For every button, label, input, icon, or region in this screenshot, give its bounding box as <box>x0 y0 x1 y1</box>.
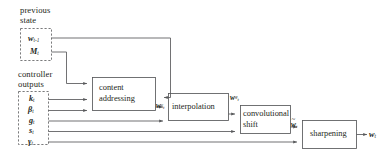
diagram-connectors-layer <box>0 0 386 166</box>
interpolation-label: interpolation <box>172 102 228 113</box>
signal-w-c: wct <box>156 101 164 110</box>
ntm-addressing-diagram: previous state controller outputs wt-1 M… <box>0 0 386 166</box>
signal-s-t: st <box>29 126 34 135</box>
sharpening-label: sharpening <box>310 129 360 140</box>
content-addressing-label: content addressing <box>99 83 157 104</box>
previous-state-label: previous state <box>20 6 50 25</box>
controller-outputs-label: controller outputs <box>18 70 52 89</box>
signal-k-t: kt <box>29 94 35 103</box>
signal-w-t-output: wt <box>369 130 376 139</box>
signal-gamma-t: γt <box>28 137 33 146</box>
signal-m-t: Mt <box>30 47 39 56</box>
signal-w-prev: wt-1 <box>28 34 39 43</box>
signal-w-tilde: ~wt <box>291 120 297 129</box>
convolutional-shift-label: convolutional shift <box>243 109 293 130</box>
signal-beta-t: βt <box>28 105 34 114</box>
signal-w-g: wgt <box>230 93 239 102</box>
edge-mt-to-content-addressing <box>52 52 88 84</box>
signal-g-t: gt <box>29 116 35 125</box>
